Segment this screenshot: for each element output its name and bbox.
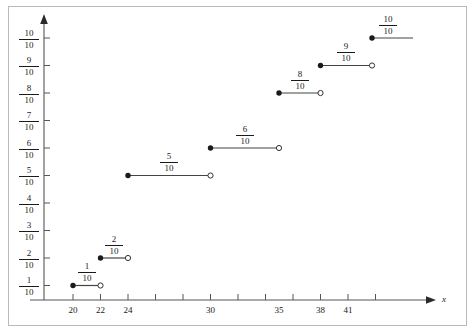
segment-label-8-10: 8 10 — [290, 70, 310, 91]
segment-label-denominator: 10 — [235, 137, 255, 146]
closed-endpoint-38 — [318, 63, 323, 68]
step-segments — [73, 38, 413, 286]
y-tick-numerator: 8 — [18, 84, 40, 93]
y-tick-label-10-10: 10 10 — [18, 29, 40, 50]
figure-container: 1 10 2 10 3 10 4 10 5 10 6 10 7 10 8 10 … — [0, 0, 476, 334]
segment-label-numerator: 10 — [378, 15, 398, 24]
y-tick-denominator: 10 — [18, 68, 40, 77]
open-endpoint-30 — [208, 173, 213, 178]
segment-label-denominator: 10 — [159, 164, 179, 173]
open-endpoint-22 — [98, 283, 103, 288]
y-tick-numerator: 2 — [18, 249, 40, 258]
x-tick-label-38: 38 — [308, 305, 334, 315]
y-tick-label-5-10: 5 10 — [18, 166, 40, 187]
x-tick-label-24: 24 — [115, 305, 141, 315]
step-function-plot — [0, 0, 476, 334]
segment-label-denominator: 10 — [77, 274, 97, 283]
y-tick-denominator: 10 — [18, 206, 40, 215]
segment-label-denominator: 10 — [378, 27, 398, 36]
y-tick-label-8-10: 8 10 — [18, 84, 40, 105]
y-tick-denominator: 10 — [18, 178, 40, 187]
y-tick-denominator: 10 — [18, 96, 40, 105]
segment-label-denominator: 10 — [104, 247, 124, 256]
y-tick-denominator: 10 — [18, 41, 40, 50]
segment-label-numerator: 8 — [290, 70, 310, 79]
x-axis-label: x — [442, 294, 446, 304]
y-tick-numerator: 6 — [18, 139, 40, 148]
segment-label-1-10: 1 10 — [77, 262, 97, 283]
x-tick-label-41: 41 — [335, 305, 361, 315]
segment-label-denominator: 10 — [290, 82, 310, 91]
y-tick-denominator: 10 — [18, 288, 40, 297]
closed-endpoint-35 — [276, 90, 281, 95]
segment-label-denominator: 10 — [336, 54, 356, 63]
segment-label-numerator: 9 — [336, 42, 356, 51]
x-tick-label-20: 20 — [60, 305, 86, 315]
y-tick-numerator: 1 — [18, 276, 40, 285]
x-axis-ticks — [73, 294, 376, 300]
y-tick-label-4-10: 4 10 — [18, 194, 40, 215]
y-tick-label-3-10: 3 10 — [18, 221, 40, 242]
y-tick-denominator: 10 — [18, 123, 40, 132]
y-tick-numerator: 9 — [18, 56, 40, 65]
y-tick-label-7-10: 7 10 — [18, 111, 40, 132]
segment-label-numerator: 6 — [235, 125, 255, 134]
y-tick-label-1-10: 1 10 — [18, 276, 40, 297]
segment-label-numerator: 5 — [159, 152, 179, 161]
y-tick-numerator: 5 — [18, 166, 40, 175]
segment-label-10-10: 10 10 — [378, 15, 398, 36]
closed-endpoint-24 — [125, 173, 130, 178]
open-endpoint-24 — [125, 255, 130, 260]
open-endpoint-35 — [276, 145, 281, 150]
segment-label-6-10: 6 10 — [235, 125, 255, 146]
y-tick-numerator: 3 — [18, 221, 40, 230]
closed-endpoint-30 — [208, 145, 213, 150]
open-endpoint-38 — [318, 90, 323, 95]
y-tick-denominator: 10 — [18, 151, 40, 160]
y-tick-numerator: 7 — [18, 111, 40, 120]
y-tick-denominator: 10 — [18, 233, 40, 242]
segment-label-numerator: 2 — [104, 235, 124, 244]
segment-label-2-10: 2 10 — [104, 235, 124, 256]
x-tick-label-22: 22 — [88, 305, 114, 315]
y-axis — [40, 14, 48, 300]
y-tick-numerator: 10 — [18, 29, 40, 38]
y-tick-label-2-10: 2 10 — [18, 249, 40, 270]
x-tick-label-30: 30 — [198, 305, 224, 315]
segment-label-9-10: 9 10 — [336, 42, 356, 63]
closed-endpoint-41 — [369, 35, 374, 40]
closed-endpoint-20 — [70, 283, 75, 288]
segment-label-numerator: 1 — [77, 262, 97, 271]
y-tick-label-9-10: 9 10 — [18, 56, 40, 77]
y-tick-numerator: 4 — [18, 194, 40, 203]
segment-label-5-10: 5 10 — [159, 152, 179, 173]
open-endpoint-41 — [369, 63, 374, 68]
y-tick-label-6-10: 6 10 — [18, 139, 40, 160]
y-tick-denominator: 10 — [18, 261, 40, 270]
y-axis-ticks — [44, 38, 50, 286]
x-tick-label-35: 35 — [266, 305, 292, 315]
closed-endpoint-22 — [98, 255, 103, 260]
